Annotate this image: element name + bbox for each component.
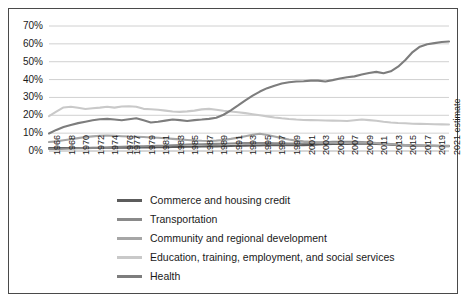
legend-item[interactable]: Community and regional development — [117, 231, 327, 245]
x-tick-label: 2019 — [438, 135, 447, 155]
legend-swatch-icon — [117, 199, 142, 202]
x-tick-label: 1972 — [97, 135, 106, 155]
x-tick-label: 1974 — [111, 135, 120, 155]
legend-item-label: Education, training, employment, and soc… — [150, 251, 395, 263]
x-tick-label: 2005 — [337, 135, 346, 155]
x-tick-label: 2011 — [380, 136, 389, 155]
x-tick-label: 1979 — [148, 135, 157, 155]
chart-figure: 0%10%20%30%40%50%60%70% 1966196819701972… — [8, 8, 458, 294]
line-chart-svg — [9, 9, 459, 191]
x-tick-label: 2009 — [366, 135, 375, 155]
x-tick-label: 1970 — [82, 135, 91, 155]
x-tick-label: 1981 — [162, 135, 171, 155]
legend-item[interactable]: Education, training, employment, and soc… — [117, 250, 395, 264]
legend-swatch-icon — [117, 275, 142, 278]
x-tick-label: 1966 — [53, 135, 62, 155]
chart-legend: Commerce and housing creditTransportatio… — [9, 193, 459, 293]
legend-swatch-icon — [117, 256, 142, 259]
x-tick-label: 2017 — [424, 135, 433, 155]
legend-item-label: Transportation — [150, 213, 217, 225]
x-tick-label: 1987 — [206, 135, 215, 155]
series-line-4 — [49, 42, 449, 134]
x-tick-label: 1983 — [177, 135, 186, 155]
x-tick-label: 1991 — [235, 135, 244, 155]
x-tick-label: 1977 — [133, 135, 142, 155]
legend-item[interactable]: Health — [117, 269, 180, 283]
x-tick-label: 2015 — [409, 135, 418, 155]
legend-item[interactable]: Commerce and housing credit — [117, 193, 290, 207]
legend-item-label: Commerce and housing credit — [150, 194, 290, 206]
x-tick-label: 1968 — [68, 135, 77, 155]
x-tick-label: 1995 — [264, 135, 273, 155]
legend-item-label: Community and regional development — [150, 232, 327, 244]
legend-swatch-icon — [117, 237, 142, 240]
x-tick-label: 1997 — [278, 135, 287, 155]
x-tick-label: 1989 — [220, 135, 229, 155]
x-tick-label: 2013 — [395, 135, 404, 155]
legend-item[interactable]: Transportation — [117, 212, 217, 226]
x-tick-label: 1999 — [293, 135, 302, 155]
legend-swatch-icon — [117, 218, 142, 221]
x-tick-label: 2001 — [308, 135, 317, 155]
x-tick-label: 2003 — [322, 135, 331, 155]
x-tick-label: 2007 — [351, 135, 360, 155]
legend-item-label: Health — [150, 270, 180, 282]
plot-area: 0%10%20%30%40%50%60%70% 1966196819701972… — [9, 9, 459, 191]
x-tick-label: 1985 — [191, 135, 200, 155]
x-tick-label: 2021 estimate — [453, 98, 462, 155]
x-tick-label: 1993 — [249, 135, 258, 155]
